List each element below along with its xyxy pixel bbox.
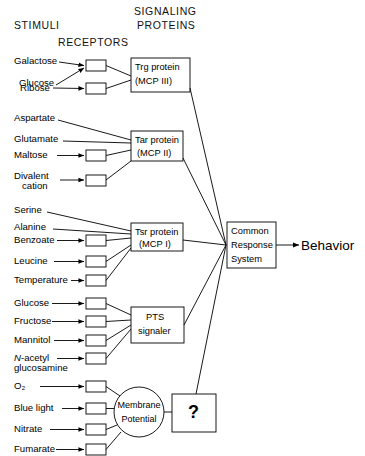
tar-protein-label-line1: Tar protein	[135, 135, 179, 147]
stimulus-label-fructose: Fructose	[14, 316, 51, 326]
stimulus-label-serine: Serine	[14, 205, 42, 215]
stimulus-label-aspartate: Aspartate	[14, 113, 55, 123]
receptor-box-o2	[86, 381, 106, 392]
stimulus-label-temperature: Temperature	[14, 275, 68, 285]
stimulus-label-maltose: Maltose	[14, 150, 48, 160]
tsr-protein-label-line2: (MCP I)	[139, 239, 171, 251]
membrane-potential-label-line1: Membrane	[111, 400, 167, 412]
diagram-vector-layer	[0, 0, 365, 456]
stimulus-label-divalent-cation: Divalent cation	[14, 171, 49, 192]
receptor-box-glucose-pts	[86, 298, 106, 309]
header-signaling-proteins-line1: SIGNALING	[134, 5, 197, 17]
stimulus-label-glucose-pts: Glucose	[14, 298, 49, 308]
receptor-box-ribose	[86, 83, 106, 94]
stimulus-label-ribose: Ribose	[20, 83, 50, 93]
stimulus-label-fumarate: Fumarate	[14, 444, 55, 454]
receptor-box-leucine	[86, 256, 106, 267]
receptor-box-nitrate	[86, 424, 106, 435]
stimulus-label-glutamate: Glutamate	[14, 134, 58, 144]
pts-signaler-label-line2: signaler	[138, 326, 171, 338]
header-receptors: RECEPTORS	[58, 36, 129, 48]
stimulus-label-leucine: Leucine	[14, 256, 48, 266]
stimulus-label-o2: O₂	[14, 381, 25, 391]
receptor-box-galactose-glucose	[86, 60, 106, 71]
membrane-potential-circle	[114, 387, 164, 437]
stimulus-label-alanine: Alanine	[14, 222, 46, 232]
receptor-box-fructose	[86, 316, 106, 327]
stimulus-label-glucosamine: glucosamine	[14, 363, 68, 373]
trg-protein-label-line2: (MCP III)	[135, 76, 172, 88]
receptor-box-divalent-cation	[86, 175, 106, 186]
membrane-potential-label-line2: Potential	[111, 414, 167, 426]
pts-signaler-label-line1: PTS	[146, 312, 164, 324]
stimulus-label-galactose: Galactose	[14, 56, 57, 66]
diagram-canvas: STIMULI RECEPTORS SIGNALING PROTEINS Gal…	[0, 0, 365, 456]
common-response-label-line3: System	[231, 254, 262, 266]
stimulus-label-blue-light: Blue light	[14, 403, 53, 413]
stimulus-label-cation: cation	[14, 181, 49, 191]
common-response-label-line2: Response	[231, 240, 273, 252]
receptor-box-benzoate	[86, 235, 106, 246]
receptor-box-maltose	[86, 150, 106, 161]
stimulus-label-mannitol: Mannitol	[14, 335, 50, 345]
receptor-box-blue-light	[86, 403, 106, 414]
tsr-protein-label-line1: Tsr protein	[135, 227, 178, 239]
unknown-box-label: ?	[188, 402, 199, 423]
stimulus-label-nitrate: Nitrate	[14, 424, 42, 434]
receptor-box-n-acetyl-glucosamine	[86, 353, 106, 364]
header-signaling-proteins-line2: PROTEINS	[137, 19, 195, 31]
receptor-box-mannitol	[86, 335, 106, 346]
receptor-box-temperature	[86, 275, 106, 286]
header-stimuli: STIMULI	[14, 19, 60, 31]
stimulus-label-n-acetyl-glucosamine: N-acetyl glucosamine	[14, 353, 68, 374]
receptor-box-fumarate	[86, 444, 106, 455]
output-label-behavior: Behavior	[301, 238, 354, 253]
tar-protein-label-line2: (MCP II)	[137, 148, 171, 160]
stimulus-label-benzoate: Benzoate	[14, 235, 55, 245]
common-response-label-line1: Common	[231, 226, 269, 238]
trg-protein-label-line1: Trg protein	[135, 62, 180, 74]
